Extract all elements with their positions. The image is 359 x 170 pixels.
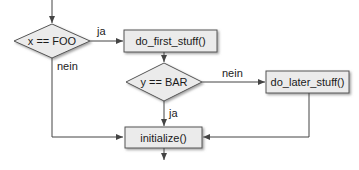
flowchart-canvas: x == FOO ja do_first_stuff() y == BAR ne… (0, 0, 359, 170)
edge-y-no-label: nein (222, 67, 243, 79)
edge-x-no-label: nein (57, 60, 78, 72)
edge-later-to-init (203, 93, 309, 137)
process-initialize: initialize() (125, 127, 202, 148)
do-later-label: do_later_stuff() (271, 76, 345, 88)
decision-y-label: y == BAR (140, 76, 187, 88)
decision-x-label: x == FOO (28, 35, 77, 47)
initialize-label: initialize() (140, 132, 186, 144)
decision-x-equals-foo: x == FOO (14, 24, 90, 58)
edge-y-yes-label: ja (168, 107, 178, 119)
decision-y-equals-bar: y == BAR (126, 63, 202, 101)
process-do-later-stuff: do_later_stuff() (266, 71, 349, 93)
do-first-label: do_first_stuff() (135, 35, 205, 47)
process-do-first-stuff: do_first_stuff() (124, 30, 217, 52)
edge-x-yes-label: ja (96, 25, 106, 37)
